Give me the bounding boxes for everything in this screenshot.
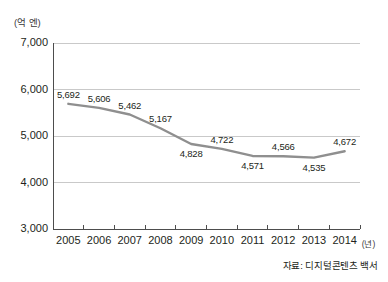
data-point-label: 5,167 — [137, 113, 183, 124]
data-point-label: 4,566 — [260, 141, 306, 152]
data-point-label: 4,535 — [291, 162, 337, 173]
x-tick-marks-group — [53, 225, 360, 229]
data-point-label: 4,672 — [322, 136, 368, 147]
y-tick-label: 3,000 — [4, 222, 48, 234]
x-axis-unit-label: (년) — [362, 237, 376, 249]
data-point-label: 5,462 — [107, 100, 153, 111]
y-tick-label: 7,000 — [4, 36, 48, 48]
chart-figure: (억 엔) 3,0004,0005,0006,0007,000 20052006… — [0, 0, 388, 282]
y-tick-label: 6,000 — [4, 83, 48, 95]
y-tick-label: 5,000 — [4, 129, 48, 141]
x-tick-label: 2014 — [325, 234, 365, 246]
source-note: 자료: 디지털콘텐츠 백서 — [283, 258, 378, 272]
data-point-label: 4,571 — [230, 160, 276, 171]
data-point-label: 4,828 — [168, 148, 214, 159]
data-point-label: 4,722 — [199, 134, 245, 145]
y-tick-label: 4,000 — [4, 176, 48, 188]
